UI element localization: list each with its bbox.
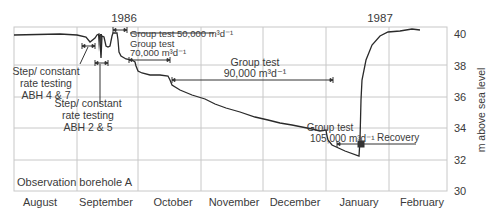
year-label-1986: 1986 (111, 12, 137, 24)
abh25-label-line3: ABH 2 & 5 (63, 121, 112, 133)
y-tick-40: 40 (454, 28, 466, 40)
x-tick-september: September (79, 196, 133, 208)
group-test-90000-label-line2: 90,000 m³d⁻¹ (224, 67, 287, 79)
panel-label: Observation borehole A (17, 176, 133, 188)
chart-labels: 1986 1987 Group test 50,000 m³d⁻¹ Group … (12, 12, 487, 208)
x-tick-february: February (400, 196, 445, 208)
abh47-label-line2: rate testing (20, 77, 72, 89)
y-tick-38: 38 (454, 60, 466, 72)
x-tick-december: December (270, 196, 321, 208)
abh25-label-line2: rate testing (62, 109, 114, 121)
recovery-label: Recovery (377, 132, 419, 143)
year-label-1987: 1987 (367, 12, 393, 24)
y-tick-30: 30 (454, 185, 466, 197)
y-tick-34: 34 (454, 122, 466, 134)
y-tick-36: 36 (454, 91, 466, 103)
group-test-105000-label-line1: Group test (307, 122, 354, 133)
abh47-label-line1: Step/ constant (12, 65, 79, 77)
hydrograph-chart: 1986 1987 Group test 50,000 m³d⁻¹ Group … (0, 0, 492, 218)
x-tick-january: January (339, 196, 379, 208)
x-tick-october: October (153, 196, 192, 208)
abh25-label-line1: Step/ constant (54, 97, 121, 109)
y-axis-label: m above sea level (475, 68, 487, 153)
x-tick-november: November (209, 196, 260, 208)
group-test-70000-label-line2: 70,000 m³d⁻¹ (130, 47, 186, 58)
group-test-105000-label-line2: 105,000 m³d⁻¹ (310, 133, 375, 144)
x-tick-august: August (23, 196, 57, 208)
y-tick-32: 32 (454, 154, 466, 166)
